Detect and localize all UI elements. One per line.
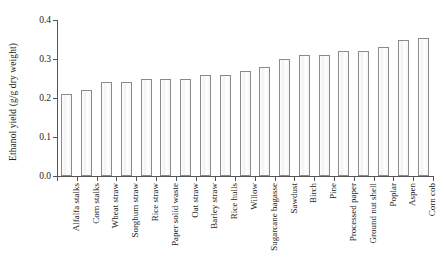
x-axis-line [57,176,434,177]
x-tick-mark [294,177,295,181]
x-tick-label: Sugarcane bagasse [269,183,279,251]
y-tick-label: 0.4 [39,15,51,25]
x-tick-label: Wheat straw [110,183,120,228]
x-tick-label: Alfalfa stalks [71,183,81,231]
bar [398,40,409,177]
bar [279,59,290,176]
x-tick-label: Paper solid waste [170,183,180,246]
x-tick-mark [374,177,375,181]
x-tick-mark [116,177,117,181]
x-tick-mark [433,177,434,181]
x-tick-label: Birch [308,183,318,203]
x-tick-label: Rice straw [150,183,160,221]
chart-figure: Ethanol yield (g/g dry weight) 0.00.10.2… [0,0,444,278]
bar [101,82,112,176]
bar [358,51,369,176]
y-tick-label: 0.0 [39,171,51,181]
x-tick-mark [77,177,78,181]
bar [319,55,330,176]
x-tick-mark [97,177,98,181]
y-tick-mark [53,59,57,60]
x-tick-label: Corn stalks [91,183,101,224]
x-tick-label: Processed paper [348,183,358,241]
bar [141,79,152,177]
x-tick-mark [334,177,335,181]
x-tick-mark [354,177,355,181]
bar [240,71,251,176]
y-axis-line [57,20,58,177]
y-tick-mark [53,137,57,138]
x-tick-label: Oat straw [190,183,200,218]
x-tick-label: Ground nut shell [368,183,378,244]
bar [121,82,132,176]
x-tick-label: Rice hulls [229,183,239,219]
y-tick-label: 0.1 [39,132,51,142]
x-tick-mark [57,177,58,181]
x-tick-label: Pine [328,183,338,199]
x-tick-mark [275,177,276,181]
x-tick-label: Sorghum straw [130,183,140,238]
bar [338,51,349,176]
x-tick-mark [176,177,177,181]
bar [81,90,92,176]
x-tick-label: Aspen [407,183,417,206]
x-tick-label: Poplar [388,183,398,207]
y-tick-label: 0.3 [39,54,51,64]
x-tick-mark [413,177,414,181]
bar [418,38,429,176]
y-tick-mark [53,20,57,21]
y-axis-title: Ethanol yield (g/g dry weight) [4,14,22,190]
bar [61,94,72,176]
x-tick-label: Barley straw [209,183,219,229]
x-tick-label: Willow [249,183,259,210]
x-tick-mark [255,177,256,181]
bar [259,67,270,176]
x-tick-mark [393,177,394,181]
bar [180,79,191,177]
x-tick-mark [136,177,137,181]
x-tick-mark [215,177,216,181]
x-tick-mark [314,177,315,181]
bar [200,75,211,176]
plot-area: 0.00.10.20.30.4 [57,20,433,176]
bar [378,47,389,176]
bar [220,75,231,176]
bar [160,79,171,177]
x-tick-label: Corn cob [427,183,437,216]
y-tick-label: 0.2 [39,93,51,103]
x-tick-mark [196,177,197,181]
bar [299,55,310,176]
y-tick-mark [53,98,57,99]
x-tick-mark [156,177,157,181]
x-tick-mark [235,177,236,181]
x-tick-label: Sawdust [289,183,299,214]
